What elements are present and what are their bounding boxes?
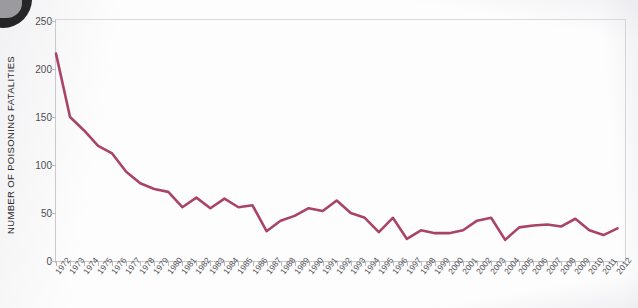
plot-border-top <box>55 19 626 20</box>
y-tick-label: 250 <box>22 16 52 27</box>
y-tick-label: 50 <box>22 208 52 219</box>
chart-page: NUMBER OF POISONING FATALITIES 050100150… <box>0 0 638 308</box>
y-tick-mark <box>51 213 56 214</box>
y-axis-line <box>55 19 56 263</box>
y-tick-label: 100 <box>22 160 52 171</box>
y-tick-label: 0 <box>22 256 52 267</box>
y-tick-label: 200 <box>22 64 52 75</box>
y-tick-mark <box>51 21 56 22</box>
y-axis-title: NUMBER OF POISONING FATALITIES <box>2 30 18 260</box>
y-tick-mark <box>51 69 56 70</box>
y-tick-label: 150 <box>22 112 52 123</box>
plot-border-right <box>625 19 626 263</box>
y-tick-mark <box>51 117 56 118</box>
y-axis-tick-labels: 050100150200250 <box>18 0 52 308</box>
x-tick-label: 2012 <box>614 255 633 276</box>
y-tick-mark <box>51 165 56 166</box>
